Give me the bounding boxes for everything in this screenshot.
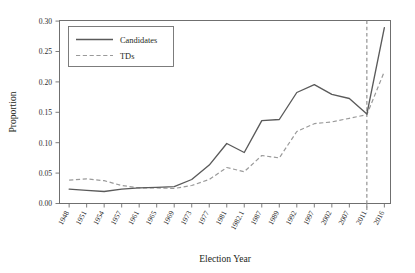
series-line-tds bbox=[69, 72, 384, 189]
x-tick-label: 1981 bbox=[214, 209, 229, 227]
legend-label-tds: TDs bbox=[120, 52, 134, 61]
y-tick-label: 0.25 bbox=[39, 47, 52, 56]
legend-label-candidates: Candidates bbox=[120, 36, 157, 45]
x-tick-label: 1997 bbox=[301, 209, 316, 227]
x-tick-label: 1961 bbox=[126, 209, 141, 227]
y-axis-title: Proportion bbox=[7, 91, 18, 132]
x-tick-label: 2016 bbox=[371, 209, 386, 227]
x-tick-label: 1954 bbox=[91, 209, 106, 227]
x-axis-tick-labels: 1948195119541957196119651969197319771981… bbox=[56, 209, 386, 231]
x-tick-label: 1989 bbox=[266, 209, 281, 227]
x-tick-label: 1992 bbox=[284, 209, 299, 227]
x-tick-label: 2002 bbox=[319, 209, 334, 227]
x-tick-label: 1973 bbox=[179, 209, 194, 227]
x-tick-label: 2007 bbox=[336, 209, 351, 227]
y-tick-label: 0.10 bbox=[39, 139, 52, 148]
line-chart-svg: 0.00 0.05 0.10 0.15 0.20 0.25 0.30 Propo… bbox=[0, 0, 415, 273]
x-axis-ticks bbox=[69, 204, 384, 208]
x-tick-label: 1957 bbox=[109, 209, 124, 227]
x-tick-label: 1987 bbox=[249, 209, 264, 227]
y-tick-label: 0.00 bbox=[39, 199, 52, 208]
chart-figure: 0.00 0.05 0.10 0.15 0.20 0.25 0.30 Propo… bbox=[0, 0, 415, 273]
y-tick-label: 0.20 bbox=[39, 78, 52, 87]
y-tick-label: 0.30 bbox=[39, 17, 52, 26]
y-axis-ticks bbox=[56, 21, 60, 203]
y-tick-label: 0.05 bbox=[39, 169, 52, 178]
y-tick-label: 0.15 bbox=[39, 108, 52, 117]
x-axis-title: Election Year bbox=[199, 253, 251, 264]
x-tick-label: 1948 bbox=[56, 209, 71, 227]
x-tick-label: 1951 bbox=[74, 209, 89, 227]
x-tick-label: 1982.1 bbox=[229, 209, 247, 231]
legend: Candidates TDs bbox=[69, 27, 174, 67]
x-tick-label: 1977 bbox=[196, 209, 211, 227]
x-tick-label: 1969 bbox=[161, 209, 176, 227]
x-tick-label: 2011 bbox=[354, 209, 369, 226]
x-tick-label: 1965 bbox=[144, 209, 159, 227]
y-axis-tick-labels: 0.00 0.05 0.10 0.15 0.20 0.25 0.30 bbox=[39, 17, 52, 208]
